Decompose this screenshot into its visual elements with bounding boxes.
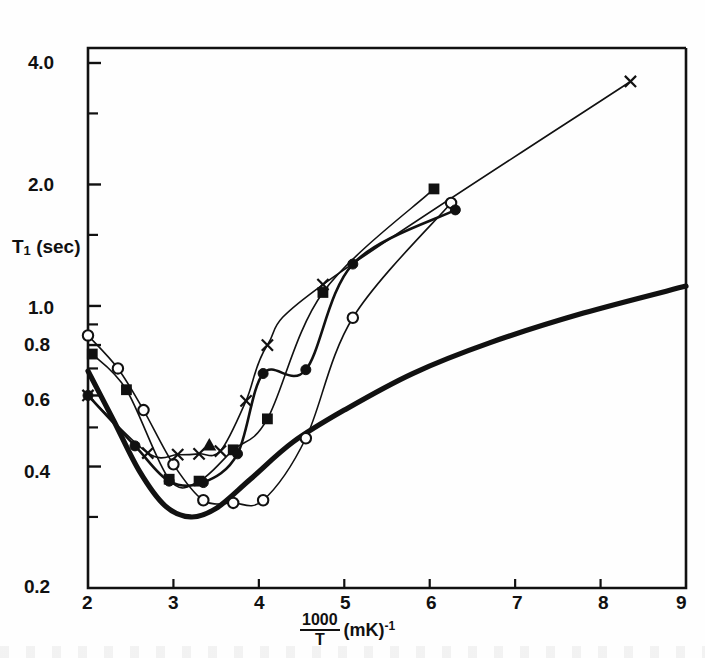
data-point-filled-circle bbox=[130, 441, 140, 451]
axes-frame bbox=[88, 48, 686, 588]
scan-artifact bbox=[0, 646, 705, 658]
data-point-open-circle bbox=[228, 498, 238, 508]
data-point-x-cross bbox=[240, 395, 251, 406]
data-point-filled-circle bbox=[348, 259, 358, 269]
data-point-filled-square bbox=[87, 349, 98, 360]
data-point-filled-circle bbox=[198, 478, 208, 488]
markers-filled-circle-series bbox=[83, 205, 460, 488]
data-point-open-circle bbox=[258, 495, 268, 505]
data-point-filled-circle bbox=[164, 476, 174, 486]
data-point-filled-triangle bbox=[202, 438, 216, 451]
data-point-open-circle bbox=[198, 495, 208, 505]
data-point-open-circle bbox=[348, 313, 358, 323]
data-point-x-cross bbox=[262, 339, 273, 350]
series-line-filled-square-series bbox=[92, 189, 434, 488]
data-point-filled-square bbox=[121, 384, 132, 395]
data-point-open-circle bbox=[113, 363, 123, 373]
data-point-filled-circle bbox=[450, 205, 460, 215]
data-point-filled-circle bbox=[233, 449, 243, 459]
data-point-open-circle bbox=[138, 405, 148, 415]
series-filled-square-series bbox=[92, 189, 434, 488]
data-point-open-circle bbox=[301, 433, 311, 443]
data-point-x-cross bbox=[215, 445, 226, 456]
series-line-theory-thick-curve bbox=[88, 286, 686, 517]
data-point-x-cross bbox=[142, 447, 153, 458]
data-point-filled-square bbox=[429, 184, 440, 195]
data-point-x-cross bbox=[625, 76, 636, 87]
data-point-filled-circle bbox=[301, 365, 311, 375]
plot-canvas bbox=[0, 0, 705, 658]
data-point-filled-square bbox=[262, 413, 273, 424]
axis-ticks bbox=[88, 63, 601, 588]
data-point-filled-circle bbox=[258, 369, 268, 379]
series-theory-thick-curve bbox=[88, 286, 686, 517]
data-series-layer bbox=[82, 76, 686, 517]
data-point-open-circle bbox=[83, 330, 93, 340]
figure-root: 4.0 2.0 1.0 0.8 0.6 0.4 0.2 T1 (sec) 2 3… bbox=[0, 0, 705, 658]
data-point-open-circle bbox=[168, 459, 178, 469]
markers-filled-triangle-point bbox=[202, 438, 216, 451]
